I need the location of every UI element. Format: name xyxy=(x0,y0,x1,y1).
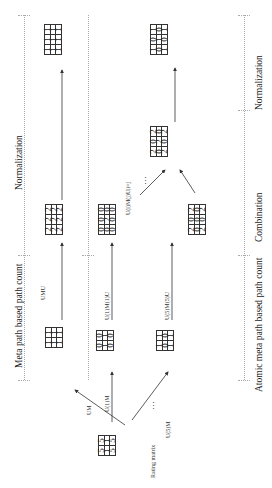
section-normalization-bottom: Normalization xyxy=(254,55,264,110)
op-um: UM xyxy=(86,405,92,415)
arrow-um xyxy=(75,390,125,425)
op-u1m: U(1)M xyxy=(104,395,110,412)
arrows-layer xyxy=(0,0,272,488)
ellipsis: … xyxy=(138,176,148,185)
separator xyxy=(238,255,250,256)
separator xyxy=(24,15,25,380)
separator xyxy=(18,380,30,381)
op-umu: UMU xyxy=(40,286,46,300)
separator xyxy=(88,15,89,380)
arrow-u5m xyxy=(132,372,168,420)
section-normalization-top: Normalization xyxy=(14,135,24,190)
arrow-combine-5 xyxy=(180,170,195,193)
separator xyxy=(244,15,245,380)
op-u1mu: U(1)M(1)U xyxy=(104,292,110,320)
separator xyxy=(18,255,30,256)
separator xyxy=(238,380,250,381)
separator xyxy=(238,15,250,16)
separator xyxy=(82,255,94,256)
op-u5m: U(5)M xyxy=(165,421,171,438)
section-meta-path: Meta path based path count xyxy=(14,264,24,368)
ellipsis: … xyxy=(146,401,156,410)
op-u5mu: U(5)M(5)U xyxy=(164,292,170,320)
op-combine: U(i)M(j)U|i=j xyxy=(125,182,131,215)
section-combination: Combination xyxy=(254,192,264,242)
section-atomic: Atomic meta path based path count xyxy=(254,258,264,392)
separator xyxy=(18,15,30,16)
rating-matrix-label: Rating matrix xyxy=(150,445,156,478)
separator xyxy=(238,110,250,111)
